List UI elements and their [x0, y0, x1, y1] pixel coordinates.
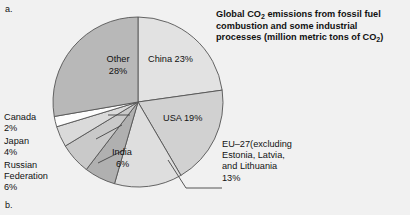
- callout-canada-pct: 2%: [4, 123, 36, 134]
- callout-eu27-line3: and Lithuania: [222, 161, 332, 172]
- slice-label-india-pct: 6%: [116, 159, 129, 169]
- slice-label-china: China 23%: [148, 54, 193, 64]
- callout-eu27: EU–27(excluding Estonia, Latvia, and Lit…: [222, 139, 332, 184]
- callout-russia-name1: Russian: [4, 160, 48, 171]
- pie-chart-svg: Other 28% China 23% USA 19% India 6%: [0, 0, 410, 215]
- callout-japan-name: Japan: [4, 136, 29, 147]
- callout-russia: Russian Federation 6%: [4, 160, 48, 194]
- callout-canada: Canada 2%: [4, 112, 36, 134]
- callout-canada-name: Canada: [4, 112, 36, 123]
- pie-slices: [53, 17, 223, 187]
- slice-label-india-name: India: [112, 147, 133, 157]
- callout-japan: Japan 4%: [4, 136, 29, 158]
- callout-japan-pct: 4%: [4, 147, 29, 158]
- slice-label-other-pct: 28%: [109, 66, 127, 76]
- figure-panel: a. b. Global CO2 emissions from fossil f…: [0, 0, 410, 215]
- slice-label-other-name: Other: [107, 54, 130, 64]
- callout-eu27-line4: 13%: [222, 173, 332, 184]
- callout-russia-name2: Federation: [4, 171, 48, 182]
- callout-russia-pct: 6%: [4, 182, 48, 193]
- pie-chart: Other 28% China 23% USA 19% India 6%: [0, 0, 410, 215]
- callout-eu27-line1: EU–27(excluding: [222, 139, 332, 150]
- slice-label-usa: USA 19%: [163, 113, 202, 123]
- callout-eu27-line2: Estonia, Latvia,: [222, 150, 332, 161]
